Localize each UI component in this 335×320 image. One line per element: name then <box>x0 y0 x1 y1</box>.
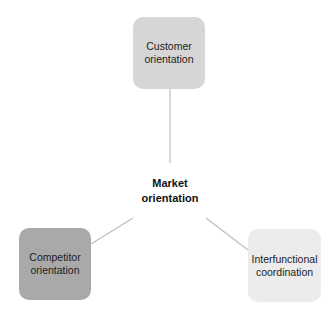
node-label-line1: Interfunctional <box>252 253 318 266</box>
node-label-line1: Competitor <box>29 251 80 264</box>
node-label-line2: orientation <box>144 53 193 66</box>
center-label-line1: Market <box>120 176 220 191</box>
node-interfunctional-coordination: Interfunctional coordination <box>248 229 321 302</box>
center-market-orientation: Market orientation <box>120 176 220 206</box>
node-label-line2: orientation <box>29 264 80 277</box>
connector-interfunctional <box>206 218 248 250</box>
node-label-line2: coordination <box>252 266 318 279</box>
node-competitor-orientation: Competitor orientation <box>19 228 91 300</box>
connector-competitor <box>91 218 133 244</box>
node-label-line1: Customer <box>144 40 193 53</box>
node-customer-orientation: Customer orientation <box>133 17 205 89</box>
center-label-line2: orientation <box>120 191 220 206</box>
